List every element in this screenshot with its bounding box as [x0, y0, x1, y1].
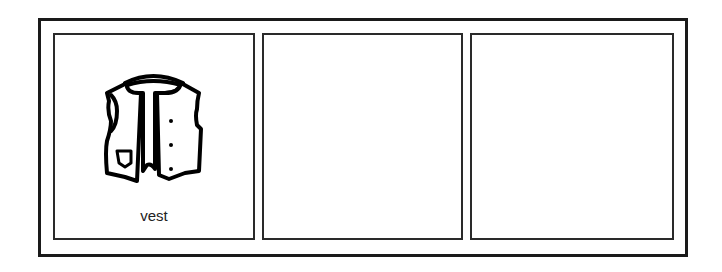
vest-icon	[103, 71, 203, 187]
symbol-card-empty-3[interactable]	[470, 33, 674, 240]
symbol-card-vest[interactable]: vest	[53, 33, 255, 240]
card-label: vest	[55, 207, 253, 224]
symbol-card-empty-2[interactable]	[262, 33, 463, 240]
